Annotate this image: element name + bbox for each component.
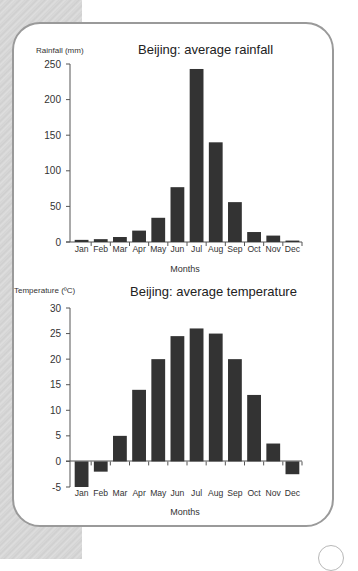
bar-oct [247, 232, 261, 242]
rainfall-x-axis-label: Months [170, 264, 200, 274]
bar-jul [190, 328, 204, 461]
bar-may [151, 218, 165, 242]
bar-dec [286, 241, 300, 242]
y-tick-label: 30 [50, 303, 62, 314]
y-tick-label: 150 [44, 130, 61, 141]
x-tick-label-sep: Sep [227, 244, 243, 254]
bar-jun [171, 187, 185, 242]
rainfall-bars [75, 69, 300, 242]
x-tick-label-feb: Feb [93, 244, 108, 254]
x-tick-label-nov: Nov [266, 488, 282, 498]
bar-feb [94, 461, 108, 471]
x-tick-label-jul: Jul [191, 244, 202, 254]
x-tick-label-apr: Apr [132, 488, 146, 498]
bar-nov [266, 444, 280, 462]
bar-oct [247, 395, 261, 461]
y-tick-label: -5 [52, 482, 61, 493]
bar-mar [113, 436, 127, 462]
temperature-chart-title: Beijing: average temperature [130, 284, 297, 299]
x-tick-label-may: May [150, 244, 167, 254]
rainfall-chart: Rainfall (mm) Beijing: average rainfall … [36, 42, 302, 274]
y-tick-label: 50 [50, 201, 62, 212]
temperature-y-ticks: -5051015202530 [50, 303, 70, 493]
bar-jan [75, 461, 89, 487]
bar-sep [228, 359, 242, 461]
rainfall-y-axis-label: Rainfall (mm) [36, 46, 84, 55]
x-tick-label-mar: Mar [113, 488, 128, 498]
bar-feb [94, 239, 108, 242]
x-tick-label-dec: Dec [285, 244, 301, 254]
x-tick-label-jan: Jan [75, 244, 89, 254]
x-tick-label-oct: Oct [247, 488, 261, 498]
temperature-x-ticks: JanFebMarAprMayJunJulAugSepOctNovDec [75, 461, 302, 498]
x-tick-label-dec: Dec [285, 488, 301, 498]
x-tick-label-apr: Apr [132, 244, 146, 254]
x-tick-label-nov: Nov [266, 244, 282, 254]
y-tick-label: 10 [50, 405, 62, 416]
x-tick-label-jul: Jul [191, 488, 202, 498]
temperature-chart: Temperature (ºC) Beijing: average temper… [14, 284, 302, 517]
x-tick-label-may: May [150, 488, 167, 498]
rainfall-x-ticks: JanFebMarAprMayJunJulAugSepOctNovDec [75, 242, 302, 254]
bar-jan [75, 240, 89, 242]
bar-apr [132, 231, 146, 242]
y-tick-label: 5 [55, 430, 61, 441]
bar-mar [113, 237, 127, 242]
bar-may [151, 359, 165, 461]
x-tick-label-aug: Aug [208, 244, 224, 254]
y-tick-label: 15 [50, 379, 62, 390]
bar-aug [209, 334, 223, 462]
x-tick-label-mar: Mar [113, 244, 128, 254]
bar-jul [190, 69, 204, 242]
rainfall-chart-title: Beijing: average rainfall [138, 42, 273, 57]
y-tick-label: 20 [50, 354, 62, 365]
bar-sep [228, 202, 242, 242]
y-tick-label: 0 [55, 456, 61, 467]
bar-dec [286, 461, 300, 474]
y-tick-label: 100 [44, 165, 61, 176]
bar-nov [266, 236, 280, 242]
x-tick-label-jun: Jun [170, 488, 184, 498]
x-tick-label-jun: Jun [170, 244, 184, 254]
x-tick-label-feb: Feb [93, 488, 108, 498]
x-tick-label-aug: Aug [208, 488, 224, 498]
y-tick-label: 200 [44, 94, 61, 105]
bar-apr [132, 390, 146, 462]
y-tick-label: 0 [55, 237, 61, 248]
rainfall-y-ticks: 050100150200250 [44, 59, 70, 248]
x-tick-label-sep: Sep [227, 488, 243, 498]
bar-jun [171, 336, 185, 461]
temperature-x-axis-label: Months [170, 507, 200, 517]
y-tick-label: 25 [50, 328, 62, 339]
bar-aug [209, 142, 223, 242]
temperature-y-axis-label: Temperature (ºC) [14, 286, 75, 295]
x-tick-label-jan: Jan [75, 488, 89, 498]
x-tick-label-oct: Oct [247, 244, 261, 254]
y-tick-label: 250 [44, 59, 61, 70]
